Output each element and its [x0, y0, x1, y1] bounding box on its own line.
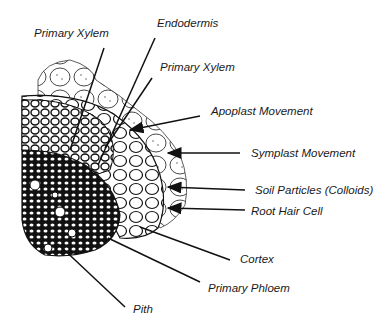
pith-cell	[52, 192, 58, 198]
label-pith: Pith	[133, 304, 153, 316]
root-cross-section-diagram: Primary Xylem Endodermis Primary Xylem A…	[0, 0, 391, 330]
pith-cell	[44, 244, 52, 252]
label-primary-phloem: Primary Phloem	[208, 283, 290, 295]
label-soil-particles: Soil Particles (Colloids)	[255, 185, 373, 197]
pith-cell	[55, 207, 65, 217]
leader-cortex	[140, 227, 230, 260]
pith-cell	[68, 229, 76, 237]
leader-pith	[58, 244, 125, 307]
label-primary-xylem-top: Primary Xylem	[34, 28, 109, 40]
label-cortex: Cortex	[240, 254, 274, 266]
root-section-illustration	[0, 0, 391, 330]
label-symplast-movement: Symplast Movement	[251, 148, 355, 160]
label-primary-xylem-right: Primary Xylem	[160, 62, 235, 74]
label-root-hair-cell: Root Hair Cell	[251, 206, 323, 218]
pith-cell	[30, 180, 40, 190]
label-apoplast-movement: Apoplast Movement	[211, 106, 313, 118]
label-endodermis: Endodermis	[157, 18, 218, 30]
